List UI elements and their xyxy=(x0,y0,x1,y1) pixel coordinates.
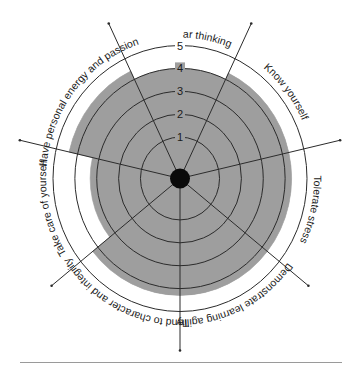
axis-end-dot xyxy=(50,284,53,287)
category-label: Tolerate stress xyxy=(298,175,324,245)
axis-end-dot xyxy=(339,139,342,142)
tick-label-2: 2 xyxy=(177,108,183,120)
tick-label-3: 3 xyxy=(177,85,183,97)
radar-chart: 12345 Practice clear thinkingKnow yourse… xyxy=(0,0,364,378)
axis-end-dot xyxy=(250,22,253,25)
tick-label-4: 4 xyxy=(177,62,183,74)
tick-label-5: 5 xyxy=(177,40,183,52)
bottom-divider xyxy=(20,362,342,363)
axis-end-dot xyxy=(179,349,182,352)
axis-end-dot xyxy=(107,22,110,25)
tick-label-1: 1 xyxy=(177,131,183,143)
axis-end-dot xyxy=(307,284,310,287)
axis-end-dot xyxy=(19,139,22,142)
category-label: Take care of yourself xyxy=(36,159,68,258)
center-dot xyxy=(170,169,190,189)
